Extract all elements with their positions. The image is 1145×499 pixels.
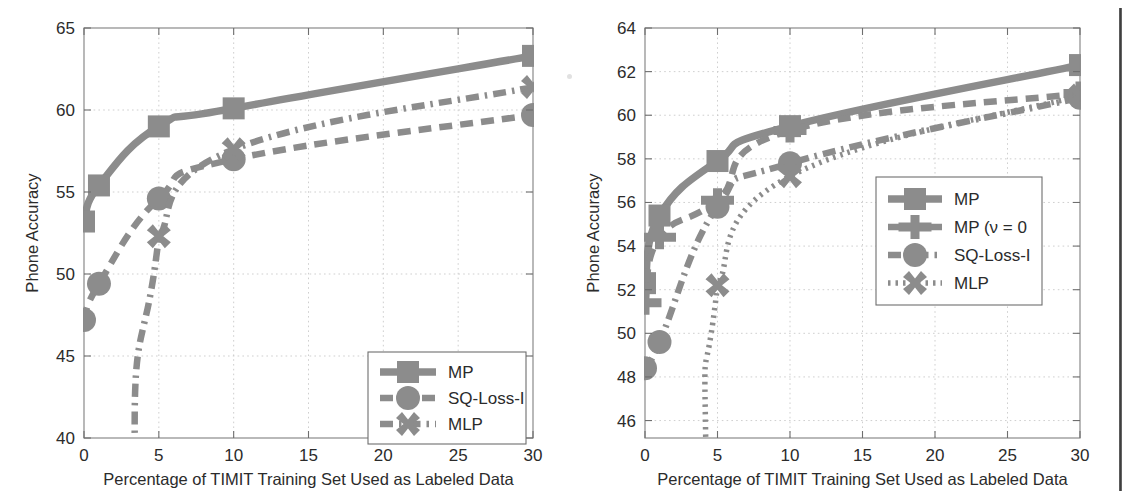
- y-tick-label: 52: [617, 281, 636, 300]
- y-tick-label: 50: [56, 265, 75, 284]
- legend-item-label: MLP: [954, 274, 989, 293]
- x-tick-label: 20: [374, 446, 393, 465]
- x-tick-label: 15: [299, 446, 318, 465]
- y-tick-label: 40: [56, 429, 75, 448]
- series-line: [84, 115, 533, 320]
- x-tick-label: 15: [853, 446, 872, 465]
- legend: MPMP (ν = 0SQ-Loss-IMLP: [876, 177, 1042, 305]
- legend-item-label: MLP: [448, 415, 483, 434]
- scan-artifact-line: [1119, 8, 1122, 491]
- x-axis-title: Percentage of TIMIT Training Set Used as…: [657, 470, 1068, 488]
- y-tick-label: 55: [56, 183, 75, 202]
- y-tick-label: 64: [617, 19, 636, 38]
- x-tick-label: 10: [224, 446, 243, 465]
- page-speck: [567, 74, 572, 79]
- marker-circle: [706, 195, 730, 219]
- marker-square: [88, 174, 110, 196]
- y-tick-label: 56: [617, 193, 636, 212]
- y-tick-label: 50: [617, 324, 636, 343]
- legend: MPSQ-Loss-IMLP: [368, 352, 526, 444]
- chart-panel-left: 404550556065051015202530Percentage of TI…: [0, 0, 580, 499]
- x-tick-label: 5: [154, 446, 163, 465]
- y-tick-label: 45: [56, 347, 75, 366]
- marker-circle: [903, 243, 927, 267]
- y-tick-label: 60: [617, 106, 636, 125]
- x-tick-label: 25: [449, 446, 468, 465]
- line-chart-right: 46485052545658606264051015202530Percenta…: [580, 0, 1120, 499]
- y-axis-title: Phone Accuracy: [23, 173, 41, 293]
- y-tick-label: 54: [617, 237, 636, 256]
- y-tick-label: 65: [56, 19, 75, 38]
- y-axis-title: Phone Accuracy: [584, 173, 602, 293]
- x-tick-label: 10: [781, 446, 800, 465]
- legend-item-label: SQ-Loss-I: [448, 389, 525, 408]
- figure-root: 404550556065051015202530Percentage of TI…: [0, 0, 1145, 499]
- x-tick-label: 5: [713, 446, 722, 465]
- y-tick-label: 46: [617, 412, 636, 431]
- marker-square: [397, 361, 419, 383]
- marker-square: [904, 188, 926, 210]
- y-tick-label: 58: [617, 150, 636, 169]
- legend-item-label: MP: [448, 363, 474, 382]
- chart-panel-right: 46485052545658606264051015202530Percenta…: [580, 0, 1120, 499]
- y-tick-label: 48: [617, 368, 636, 387]
- legend-item[interactable]: SQ-Loss-I: [380, 386, 525, 410]
- x-tick-label: 30: [524, 446, 543, 465]
- y-tick-label: 60: [56, 101, 75, 120]
- marker-circle: [396, 386, 420, 410]
- x-tick-label: 0: [640, 446, 649, 465]
- marker-circle: [87, 272, 111, 296]
- x-tick-label: 20: [926, 446, 945, 465]
- x-tick-label: 0: [79, 446, 88, 465]
- x-axis-title: Percentage of TIMIT Training Set Used as…: [103, 470, 514, 488]
- legend-item-label: SQ-Loss-I: [954, 246, 1031, 265]
- marker-square: [223, 97, 245, 119]
- y-tick-label: 62: [617, 63, 636, 82]
- x-tick-label: 25: [998, 446, 1017, 465]
- line-chart-left: 404550556065051015202530Percentage of TI…: [0, 0, 580, 499]
- marker-square: [148, 115, 170, 137]
- x-tick-label: 30: [1071, 446, 1090, 465]
- marker-square: [649, 205, 671, 227]
- legend-item-label: MP: [954, 190, 980, 209]
- legend-item[interactable]: SQ-Loss-I: [888, 243, 1031, 267]
- marker-square: [707, 150, 729, 172]
- legend-item-label: MP (ν = 0: [954, 218, 1027, 237]
